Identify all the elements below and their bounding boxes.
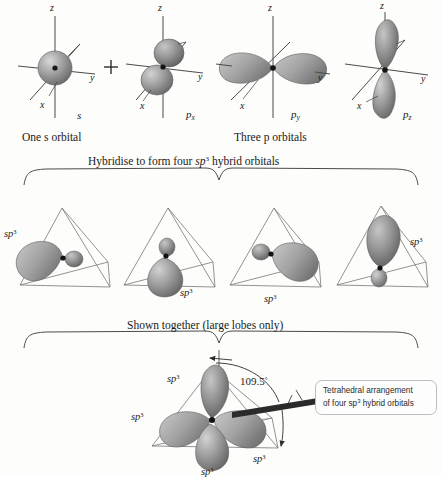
axis-label-y-py: y xyxy=(318,72,322,83)
axis-label-x-px: x xyxy=(140,100,144,111)
callout-tetrahedral-arrangement: Tetrahedral arrangement of four sp3 hybr… xyxy=(315,380,437,415)
orbital-s xyxy=(18,16,95,118)
brace-hybridise xyxy=(24,168,418,185)
orbital-label-s: s xyxy=(77,109,81,121)
orbital-px xyxy=(126,16,203,118)
orbital-py xyxy=(216,16,330,118)
tetrahedron-1 xyxy=(16,208,110,287)
sp3-label-mid-left: sp3 xyxy=(131,411,144,422)
bond-angle-label: 109.5° xyxy=(240,375,268,387)
orbital-label-py: py xyxy=(291,108,300,122)
tetrahedron-3 xyxy=(230,208,321,287)
sp3-label-top-left: sp3 xyxy=(167,373,180,384)
caption-three-p-orbitals: Three p orbitals xyxy=(234,131,307,143)
axis-label-y-pz: y xyxy=(421,73,425,84)
axis-label-y-px: y xyxy=(198,71,202,82)
axis-label-x-pz: x xyxy=(357,100,361,111)
callout-line-2: of four sp3 hybrid orbitals xyxy=(323,397,430,410)
tetrahedron-2 xyxy=(124,208,215,297)
sp3-label-tetra-1: sp3 xyxy=(4,228,17,239)
callout-line-1: Tetrahedral arrangement xyxy=(323,385,430,397)
sp3-label-tetra-4: sp3 xyxy=(410,236,423,247)
sp3-label-tetra-3: sp3 xyxy=(264,293,277,304)
axis-label-y-s: y xyxy=(90,72,94,83)
orbital-label-pz: pz xyxy=(403,108,411,122)
axis-label-x-s: x xyxy=(40,99,44,110)
sp3-label-bottom-center: sp3 xyxy=(201,466,214,477)
brace-hybridise-text: Hybridise to form four sp3 hybrid orbita… xyxy=(88,155,279,167)
brace-shown-together xyxy=(24,331,418,372)
axis-label-x-py: x xyxy=(240,100,244,111)
axis-label-z-s: z xyxy=(50,2,54,13)
caption-one-s-orbital: One s orbital xyxy=(22,131,81,143)
axis-label-z-py: z xyxy=(268,2,272,13)
sp3-label-bottom-right: sp3 xyxy=(253,453,266,464)
axis-label-z-px: z xyxy=(158,2,162,13)
brace-shown-together-text: Shown together (large lobes only) xyxy=(127,319,283,331)
axis-label-z-pz: z xyxy=(380,0,384,11)
orbital-label-px: px xyxy=(186,108,195,122)
plus-symbol xyxy=(104,60,118,74)
sp3-label-tetra-2: sp3 xyxy=(180,287,193,298)
